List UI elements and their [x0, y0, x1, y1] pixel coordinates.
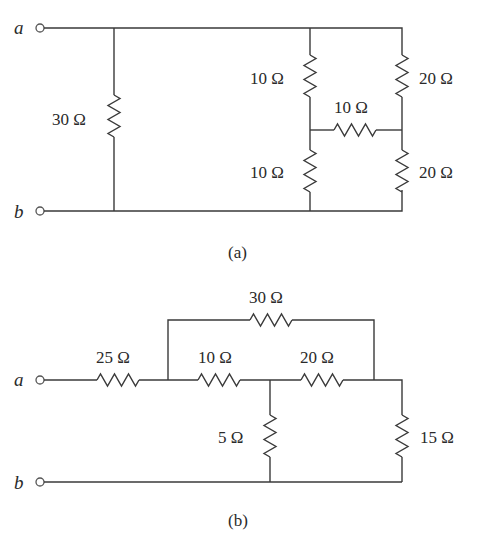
resistor-10-ohm-upper-label: 10 Ω — [250, 69, 284, 88]
resistor-10-ohm-label: 10 Ω — [198, 348, 232, 367]
resistor-20-ohm-label: 20 Ω — [300, 348, 334, 367]
figure-b: a b 25 Ω 30 Ω 10 Ω 20 Ω 5 Ω 15 Ω (b — [14, 288, 454, 530]
resistor-5-ohm-icon — [264, 415, 276, 457]
resistor-10-ohm-middle-icon — [334, 124, 376, 136]
resistor-30-ohm-label: 30 Ω — [52, 110, 86, 129]
terminal-b-icon — [36, 478, 44, 486]
terminal-b-label: b — [14, 472, 24, 493]
resistor-20-ohm-upper-icon — [396, 55, 408, 97]
terminal-b-label: b — [14, 201, 24, 222]
resistor-30-ohm-label: 30 Ω — [249, 288, 283, 307]
terminal-a-icon — [36, 376, 44, 384]
resistor-20-ohm-icon — [301, 374, 343, 386]
bottom-wire — [44, 190, 402, 211]
circuit-diagrams: a b 30 Ω 10 Ω 10 Ω 10 Ω 20 Ω 20 Ω (a) — [0, 0, 481, 539]
terminal-a-label: a — [14, 17, 24, 38]
resistor-30-ohm-icon — [108, 95, 120, 137]
resistor-10-ohm-middle-label: 10 Ω — [334, 98, 368, 117]
terminal-a-icon — [36, 24, 44, 32]
caption-b: (b) — [228, 511, 248, 530]
resistor-20-ohm-lower-icon — [396, 150, 408, 192]
resistor-20-ohm-lower-label: 20 Ω — [419, 163, 453, 182]
wire — [343, 380, 402, 415]
resistor-25-ohm-icon — [97, 374, 139, 386]
resistor-30-ohm-icon — [250, 314, 292, 326]
top-wire — [44, 28, 402, 55]
resistor-15-ohm-icon — [396, 415, 408, 457]
resistor-10-ohm-upper-icon — [304, 55, 316, 97]
resistor-15-ohm-label: 15 Ω — [420, 428, 454, 447]
resistor-5-ohm-label: 5 Ω — [218, 428, 243, 447]
terminal-a-label: a — [14, 369, 24, 390]
resistor-20-ohm-upper-label: 20 Ω — [419, 69, 453, 88]
terminal-b-icon — [36, 207, 44, 215]
figure-a: a b 30 Ω 10 Ω 10 Ω 10 Ω 20 Ω 20 Ω (a) — [14, 17, 453, 262]
resistor-10-ohm-lower-icon — [304, 150, 316, 192]
resistor-25-ohm-label: 25 Ω — [96, 348, 130, 367]
resistor-10-ohm-lower-label: 10 Ω — [250, 163, 284, 182]
resistor-10-ohm-icon — [198, 374, 240, 386]
caption-a: (a) — [228, 243, 247, 262]
